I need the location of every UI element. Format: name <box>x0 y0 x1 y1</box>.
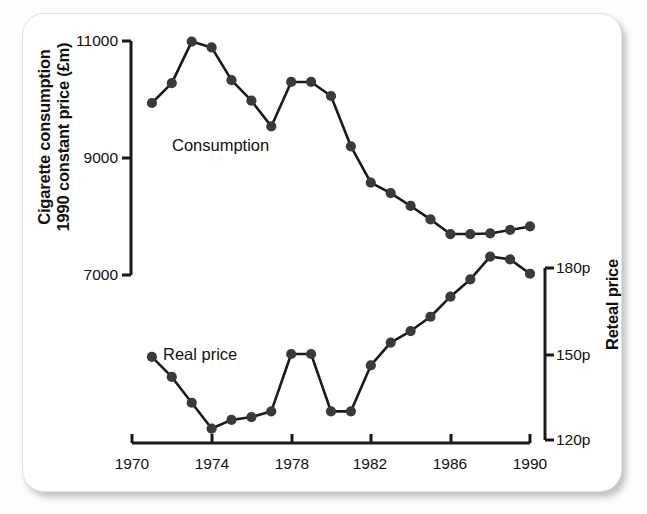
data-point-marker <box>445 229 455 239</box>
data-point-marker <box>147 98 157 108</box>
data-point-marker <box>187 36 197 46</box>
data-point-marker <box>386 337 396 347</box>
series-segment <box>351 365 371 411</box>
data-point-marker <box>246 412 256 422</box>
series-segment <box>271 82 291 126</box>
data-point-marker <box>246 96 256 106</box>
plot-area <box>0 0 647 514</box>
data-point-marker <box>406 326 416 336</box>
data-point-marker <box>406 201 416 211</box>
data-point-marker <box>525 269 535 279</box>
data-point-marker <box>306 77 316 87</box>
data-point-marker <box>366 177 376 187</box>
data-point-marker <box>525 221 535 231</box>
data-point-marker <box>505 254 515 264</box>
data-point-marker <box>346 406 356 416</box>
series-segment <box>212 47 232 80</box>
data-point-marker <box>266 406 276 416</box>
data-point-marker <box>207 42 217 52</box>
data-point-marker <box>187 398 197 408</box>
left-axis-spine <box>122 41 131 275</box>
data-point-marker <box>485 228 495 238</box>
axis-lines <box>122 41 554 443</box>
data-point-marker <box>505 225 515 235</box>
series-segment <box>351 146 371 182</box>
data-point-marker <box>167 78 177 88</box>
series-real-price <box>147 251 535 433</box>
right-axis-spine <box>545 268 554 440</box>
series-segment <box>311 354 331 411</box>
series-segment <box>331 96 351 146</box>
data-point-marker <box>445 292 455 302</box>
data-point-marker <box>266 121 276 131</box>
data-point-marker <box>425 214 435 224</box>
data-point-marker <box>366 360 376 370</box>
data-point-marker <box>207 423 217 433</box>
data-point-marker <box>286 77 296 87</box>
data-point-marker <box>386 188 396 198</box>
data-point-marker <box>326 406 336 416</box>
series-segment <box>271 354 291 411</box>
data-point-marker <box>425 312 435 322</box>
data-point-marker <box>465 229 475 239</box>
chart-figure: Cigarette consumption 1990 constant pric… <box>0 0 647 514</box>
data-point-marker <box>326 91 336 101</box>
series-segment <box>172 42 192 84</box>
data-point-marker <box>147 352 157 362</box>
data-point-marker <box>346 141 356 151</box>
series-consumption <box>147 36 535 239</box>
data-point-marker <box>286 349 296 359</box>
data-point-marker <box>306 349 316 359</box>
data-point-marker <box>226 75 236 85</box>
data-point-marker <box>226 415 236 425</box>
data-point-marker <box>465 274 475 284</box>
data-point-marker <box>167 372 177 382</box>
bottom-axis-spine <box>132 434 530 443</box>
data-point-marker <box>485 251 495 261</box>
